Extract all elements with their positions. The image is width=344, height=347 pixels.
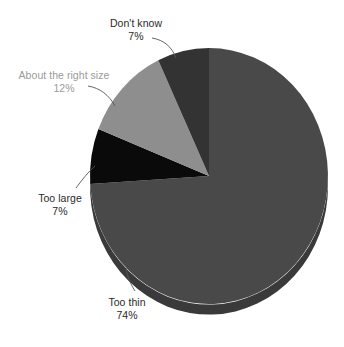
pie-label-too-thin-value: 74% <box>88 309 166 322</box>
pie-label-about-right-size-value: 12% <box>4 82 124 95</box>
pie-label-dont-know: Don't know 7% <box>92 17 180 43</box>
pie-label-too-thin: Too thin 74% <box>88 296 166 322</box>
pie-label-about-right-size-name: About the right size <box>4 69 124 82</box>
pie-label-about-right-size: About the right size 12% <box>4 69 124 95</box>
pie-chart-svg <box>0 0 344 347</box>
pie-label-too-large-name: Too large <box>22 192 98 205</box>
pie-label-too-thin-name: Too thin <box>88 296 166 309</box>
pie-chart-figure: Don't know 7% About the right size 12% T… <box>0 0 344 347</box>
pie-label-too-large: Too large 7% <box>22 192 98 218</box>
pie-label-dont-know-value: 7% <box>92 30 180 43</box>
pie-label-too-large-value: 7% <box>22 205 98 218</box>
pie-label-dont-know-name: Don't know <box>92 17 180 30</box>
pie-top-face <box>90 48 328 304</box>
